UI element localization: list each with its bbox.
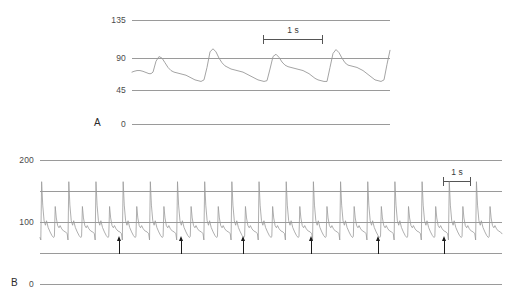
event-arrow-icon-2 [179,236,184,254]
event-arrow-icon-4 [309,236,314,254]
event-arrow-icon-1 [117,236,122,254]
event-arrow-icon-5 [376,236,381,254]
event-arrow-icon-3 [241,236,246,254]
panel-b-waveform [0,0,516,298]
event-arrow-icon-6 [442,236,447,254]
physiological-recording-figure: A 135 90 45 0 1 s B 200 100 0 [0,0,516,298]
